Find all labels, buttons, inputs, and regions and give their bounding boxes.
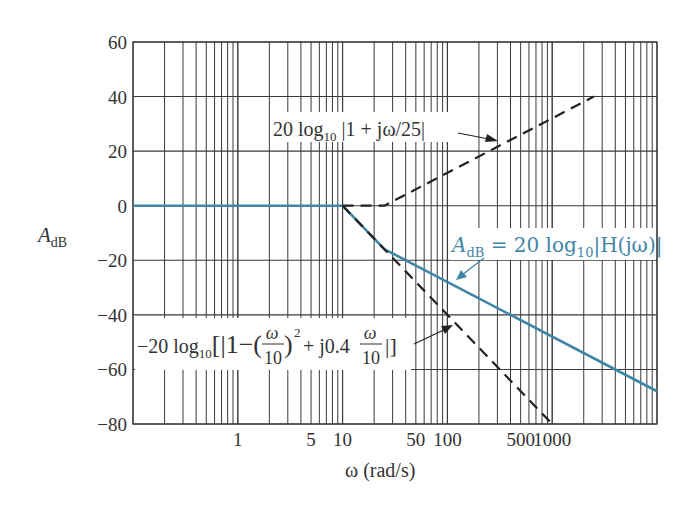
svg-text:−80: −80: [97, 414, 127, 435]
svg-text:ω: ω: [364, 323, 377, 343]
svg-text:500: 500: [506, 429, 535, 450]
svg-text:10: 10: [264, 348, 282, 368]
svg-text:): ): [284, 330, 293, 359]
x-tick-labels: 1510501005001000: [233, 429, 571, 450]
annotation-total-response: AdB = 20 log10|H(jω)|: [450, 228, 662, 280]
svg-text:−60: −60: [97, 359, 127, 380]
svg-text:1: 1: [233, 429, 243, 450]
svg-text:2: 2: [294, 325, 301, 340]
svg-text:10: 10: [333, 429, 352, 450]
svg-text:20: 20: [108, 141, 127, 162]
svg-text:5: 5: [306, 429, 316, 450]
y-tick-labels: 6040200−20−40−60−80: [97, 32, 127, 435]
svg-text:+ j0.4: + j0.4: [303, 335, 350, 358]
svg-text:50: 50: [406, 429, 425, 450]
svg-text:|]: |]: [385, 333, 397, 358]
svg-text:100: 100: [433, 429, 462, 450]
svg-text:40: 40: [108, 87, 127, 108]
svg-text:60: 60: [108, 32, 127, 53]
svg-text:−20: −20: [97, 250, 127, 271]
x-axis-label: ω (rad/s): [345, 459, 415, 482]
svg-text:10: 10: [362, 348, 380, 368]
annotation-pole-pair: −20 log10[|1−( ω 10 ) 2 + j0.4 ω 10 |]: [135, 318, 453, 370]
svg-text:−40: −40: [97, 305, 127, 326]
y-axis-label: AdB: [36, 223, 67, 250]
svg-text:ω: ω: [266, 323, 279, 343]
svg-text:0: 0: [118, 196, 128, 217]
annotation-zero: 20 log10 |1 + jω/25|: [270, 112, 498, 144]
svg-text:1000: 1000: [533, 429, 571, 450]
bode-magnitude-chart: 6040200−20−40−60−80 1510501005001000 AdB…: [0, 0, 674, 512]
